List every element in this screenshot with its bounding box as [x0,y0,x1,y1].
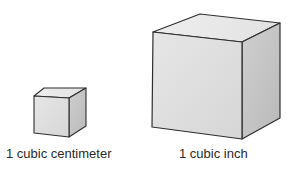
small-cube-icon [34,88,86,137]
small-cube-front-face [34,96,69,137]
large-cube-icon [152,14,280,139]
large-cube-front-face [152,32,242,139]
cubic-centimeter-label: 1 cubic centimeter [6,147,112,161]
cubic-inch-label: 1 cubic inch [179,147,248,161]
large-cube-side-face [242,23,280,139]
